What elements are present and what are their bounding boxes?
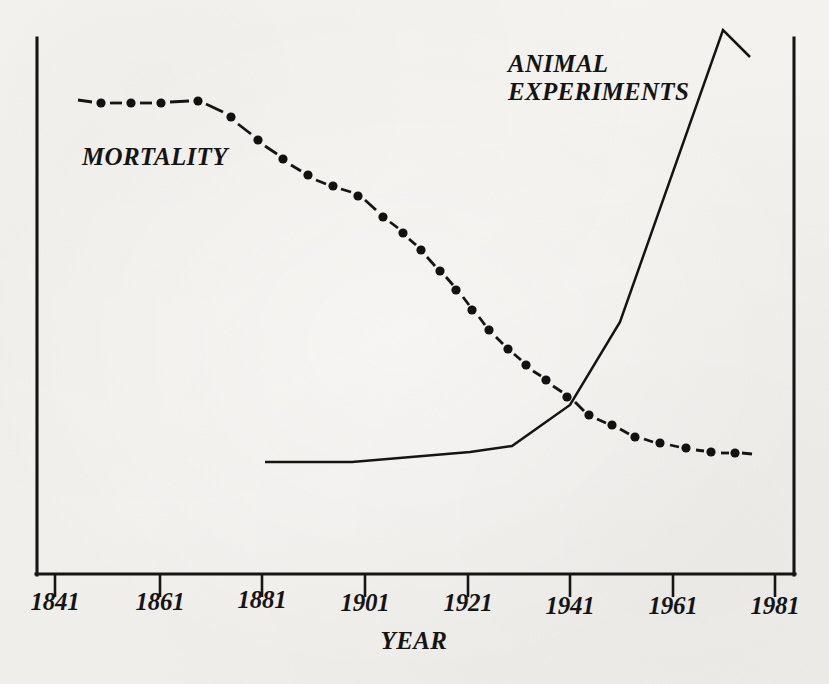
series-label-mortality: MORTALITY (82, 143, 228, 171)
tick-label-1901: 1901 (341, 589, 390, 617)
tick-label-1841: 1841 (31, 588, 80, 616)
tick-label-1861: 1861 (136, 588, 185, 616)
chart-figure: 1841 1861 1881 1901 1921 1941 1961 1981 … (0, 0, 829, 684)
tick-label-1961: 1961 (649, 592, 698, 620)
plot-area (0, 0, 829, 684)
tick-label-1921: 1921 (444, 589, 493, 617)
series-label-animal-experiments: ANIMAL EXPERIMENTS (508, 50, 689, 106)
tick-label-1981: 1981 (751, 592, 800, 620)
tick-label-1881: 1881 (238, 586, 287, 614)
tick-label-1941: 1941 (546, 592, 595, 620)
x-axis-title: YEAR (381, 627, 448, 655)
